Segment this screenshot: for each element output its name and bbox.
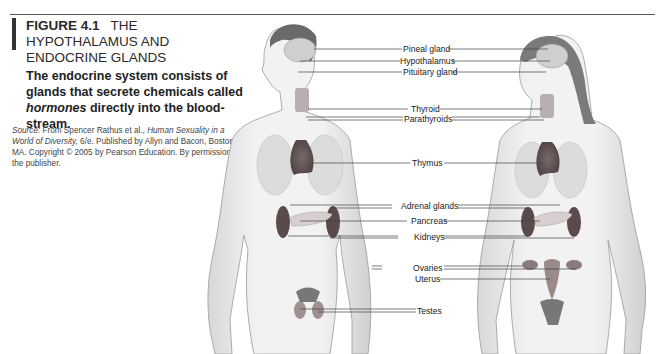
male-body <box>208 24 371 354</box>
male-silhouette <box>208 28 371 354</box>
label-testes: Testes <box>417 306 442 316</box>
label-adrenal-glands: Adrenal glands <box>401 201 458 211</box>
label-pineal-gland: Pineal gland <box>403 44 450 54</box>
label-ovaries: Ovaries <box>413 263 443 273</box>
female-ovary-right <box>566 260 582 270</box>
male-testis-right <box>312 301 324 319</box>
male-kidney-left <box>276 206 290 238</box>
female-brain <box>536 44 568 68</box>
label-thymus: Thymus <box>412 158 443 168</box>
female-ovary-left <box>522 260 538 270</box>
label-pituitary-gland: Pituitary gland <box>403 67 457 77</box>
male-pubic-hair <box>296 288 320 303</box>
label-uterus: Uterus <box>415 274 440 284</box>
female-kidney-right <box>567 207 581 237</box>
label-hypothalamus: Hypothalamus <box>400 56 455 66</box>
label-kidneys: Kidneys <box>414 232 445 242</box>
male-thyroid <box>295 88 309 112</box>
label-pancreas: Pancreas <box>411 216 447 226</box>
label-thyroid: Thyroid <box>411 104 440 114</box>
male-kidney-right <box>326 206 340 238</box>
male-lung-left <box>257 135 293 195</box>
male-testis-left <box>294 301 306 319</box>
female-body <box>478 35 646 354</box>
label-parathyroids: Parathyroids <box>404 114 452 124</box>
male-brain <box>284 38 316 62</box>
female-kidney-left <box>521 207 535 237</box>
female-thyroid <box>540 94 554 118</box>
endocrine-illustration <box>0 0 665 354</box>
